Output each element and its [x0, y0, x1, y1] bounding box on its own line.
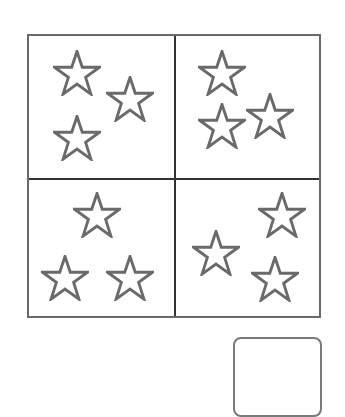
- star-icon: [53, 115, 101, 161]
- star-icon: [53, 50, 101, 96]
- star-icon: [251, 256, 299, 302]
- horizontal-divider: [29, 178, 319, 180]
- answer-box[interactable]: [233, 337, 322, 417]
- star-icon: [198, 103, 246, 149]
- vertical-divider: [174, 36, 176, 316]
- star-icon: [106, 76, 154, 122]
- star-icon: [73, 192, 121, 238]
- star-icon: [192, 230, 240, 276]
- star-icon: [41, 255, 89, 301]
- star-icon: [198, 50, 246, 96]
- star-icon: [246, 93, 294, 139]
- star-icon: [258, 192, 306, 238]
- star-icon: [106, 255, 154, 301]
